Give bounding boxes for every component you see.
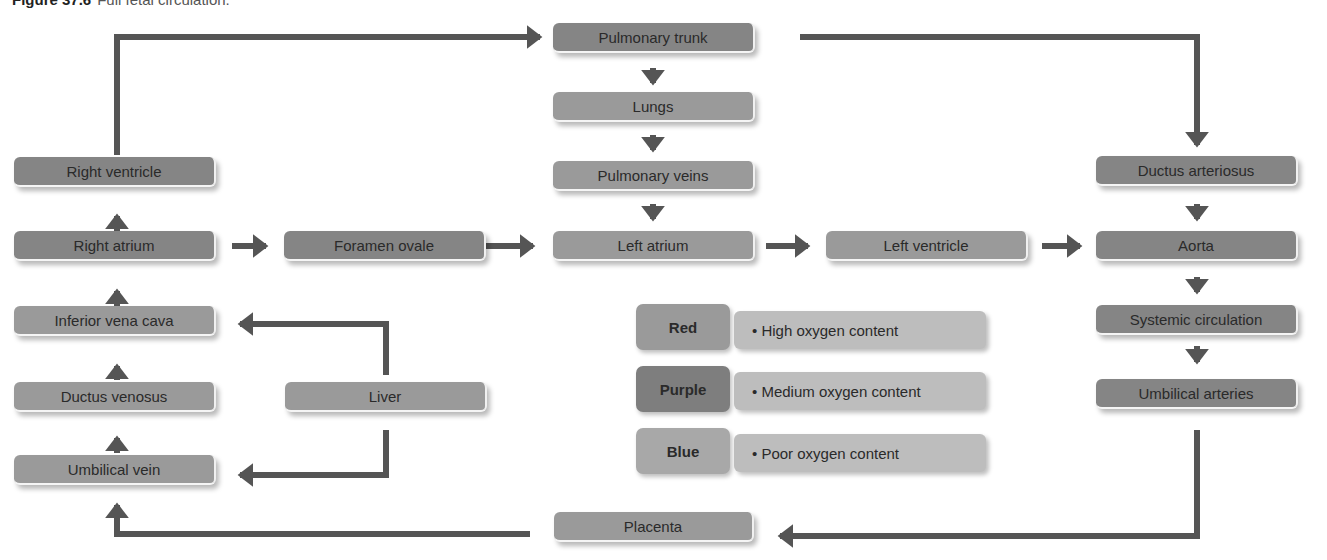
node-foramen-ovale: Foramen ovale xyxy=(284,231,486,261)
legend-desc-red: • High oxygen content xyxy=(734,311,986,349)
legend-key-red: Red xyxy=(636,304,730,350)
node-placenta: Placenta xyxy=(554,512,754,542)
node-ductus-venosus: Ductus venosus xyxy=(14,382,216,412)
node-pulmonary-veins: Pulmonary veins xyxy=(553,161,755,191)
arrow-rv-to-pulmonary-trunk xyxy=(117,37,540,155)
legend-key-blue: Blue xyxy=(636,428,730,474)
node-liver: Liver xyxy=(285,382,487,412)
legend-key-purple: Purple xyxy=(636,366,730,412)
legend-desc-blue: • Poor oxygen content xyxy=(734,434,986,472)
legend-desc-purple: • Medium oxygen content xyxy=(734,372,986,410)
node-right-ventricle: Right ventricle xyxy=(14,157,216,187)
node-inferior-vena-cava: Inferior vena cava xyxy=(14,306,216,336)
arrow-liver-to-uv xyxy=(240,430,386,475)
node-umbilical-arteries: Umbilical arteries xyxy=(1096,379,1298,409)
node-pulmonary-trunk: Pulmonary trunk xyxy=(553,23,755,53)
node-right-atrium: Right atrium xyxy=(14,231,216,261)
node-aorta: Aorta xyxy=(1096,231,1298,261)
node-left-atrium: Left atrium xyxy=(553,231,755,261)
node-umbilical-vein: Umbilical vein xyxy=(14,455,216,485)
node-ductus-arteriosus: Ductus arteriosus xyxy=(1096,156,1298,186)
node-systemic-circulation: Systemic circulation xyxy=(1096,305,1298,335)
arrow-placenta-to-uv xyxy=(117,505,530,534)
arrow-liver-to-ivc xyxy=(240,324,386,375)
node-lungs: Lungs xyxy=(553,92,755,122)
arrow-pt-to-ductus-arteriosus xyxy=(800,37,1197,145)
node-left-ventricle: Left ventricle xyxy=(826,231,1028,261)
